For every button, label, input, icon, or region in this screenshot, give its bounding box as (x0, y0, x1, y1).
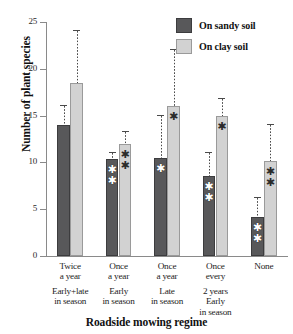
x-axis-category-label: None (240, 261, 288, 271)
x-axis-category-label: Onceevery2 yearsEarlyin season (191, 261, 239, 317)
bar-clay (264, 161, 277, 256)
y-axis-tick-label: 5 (0, 204, 37, 213)
error-bar-cap (109, 152, 116, 153)
error-bar-cap (205, 152, 212, 153)
y-axis-tick-label: 10 (0, 157, 37, 166)
error-bar (222, 99, 223, 116)
error-bar-cap (73, 30, 80, 31)
bar-clay (167, 106, 180, 256)
error-bar-cap (218, 98, 225, 99)
x-axis-line (46, 256, 288, 257)
bar-clay (70, 83, 83, 256)
legend-item-clay: On clay soil (176, 39, 256, 54)
error-bar (77, 31, 78, 82)
legend-label-sandy: On sandy soil (199, 20, 256, 31)
x-axis-category-label: Twicea yearEarly+latein season (46, 261, 94, 307)
bar-chart: Number of plant species 0510152025 ✱✱✱✱✱… (0, 0, 293, 334)
error-bar (270, 125, 271, 161)
legend: On sandy soil On clay soil (176, 18, 256, 60)
error-bar (257, 198, 258, 217)
legend-swatch-sandy-icon (176, 18, 192, 33)
y-axis-tick-label: 20 (0, 64, 37, 73)
error-bar (125, 132, 126, 144)
error-bar-cap (122, 131, 129, 132)
y-axis-tick-label: 15 (0, 111, 37, 120)
y-axis-title-container: Number of plant species (16, 14, 32, 174)
legend-item-sandy: On sandy soil (176, 18, 256, 33)
bar-sandy (57, 125, 70, 256)
bar-clay (216, 116, 229, 256)
x-axis-category-label: Oncea yearLatein season (143, 261, 191, 307)
y-axis-tick-label: 25 (0, 17, 37, 26)
bar-sandy (154, 158, 167, 256)
y-axis-title: Number of plant species (20, 36, 32, 152)
legend-swatch-clay-icon (176, 39, 192, 54)
bar-sandy (251, 217, 264, 256)
bar-clay (119, 144, 132, 256)
bar-sandy (203, 176, 216, 256)
error-bar-cap (254, 197, 261, 198)
error-bar (112, 153, 113, 159)
error-bar (209, 153, 210, 175)
error-bar-cap (60, 105, 67, 106)
error-bar (161, 116, 162, 158)
y-axis-tick-label: 0 (0, 251, 37, 260)
bar-sandy (106, 159, 119, 256)
x-axis-category-label: Oncea yearEarlyin season (94, 261, 142, 307)
error-bar-cap (157, 115, 164, 116)
y-axis-tick (40, 256, 47, 257)
error-bar (174, 50, 175, 106)
error-bar-cap (267, 124, 274, 125)
legend-label-clay: On clay soil (199, 41, 248, 52)
x-axis-title: Roadside mowing regime (0, 316, 293, 328)
error-bar (64, 106, 65, 125)
